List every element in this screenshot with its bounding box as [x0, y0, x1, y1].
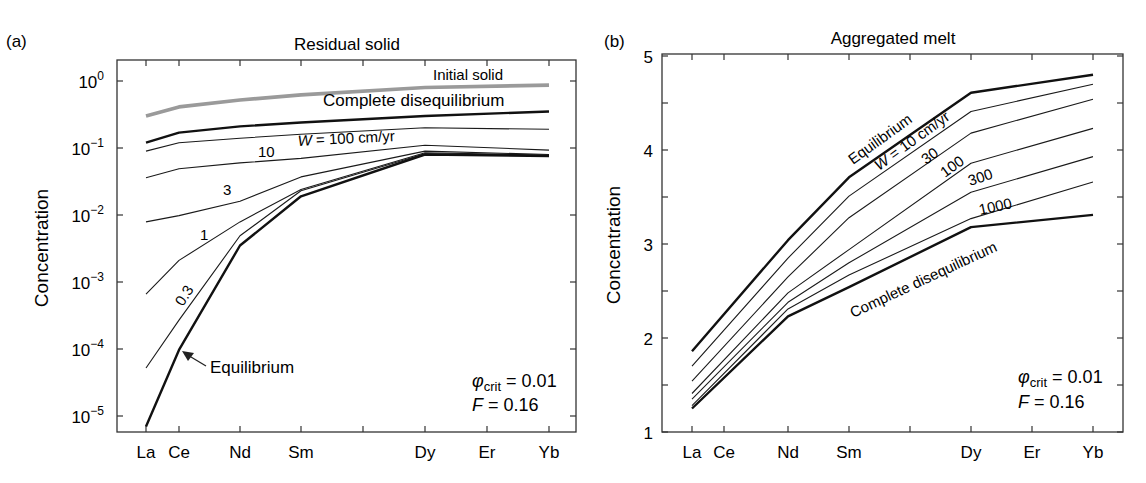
x-tick-label-er: Er [1024, 443, 1041, 462]
label-w300-b: 300 [966, 165, 995, 189]
series-line [146, 154, 549, 368]
y-tick-label: 10−5 [71, 404, 104, 427]
y-tick-label: 5 [644, 48, 653, 67]
y-tick-label: 10−3 [71, 270, 104, 293]
f-value: = 0.16 [483, 395, 539, 415]
y-tick-label: 4 [644, 142, 653, 161]
x-tick-label-sm: Sm [288, 443, 314, 462]
x-tick-label-ce: Ce [168, 443, 190, 462]
panel-a-y-axis-label: Concentration [31, 189, 52, 307]
panel-b-y-axis-label: Concentration [603, 186, 624, 304]
y-tick-label: 100 [78, 69, 104, 92]
label-w30-b: 30 [918, 144, 941, 168]
phi-symbol-b: φ [1018, 367, 1030, 387]
x-tick-label-nd: Nd [777, 443, 799, 462]
x-tick-label-la: La [683, 443, 702, 462]
f-param-b: F = 0.16 [1018, 392, 1085, 412]
panel-a-title: Residual solid [294, 35, 400, 54]
y-tick-label: 10−2 [71, 203, 104, 226]
phi-value-b: = 0.01 [1047, 367, 1103, 387]
phi-crit-param: φcrit = 0.01 [472, 371, 557, 394]
panel-b-annotations: Equilibrium W = 10 cm/yr 30 100 300 1000… [845, 107, 1103, 412]
x-tick-label-la: La [137, 443, 156, 462]
label-w1: 1 [200, 226, 208, 243]
label-w03: 0.3 [171, 282, 196, 309]
f-param: F = 0.16 [472, 395, 539, 415]
phi-subscript: crit [484, 379, 502, 394]
label-complete-disequilibrium: Complete disequilibrium [323, 91, 504, 110]
y-tick-label: 3 [644, 236, 653, 255]
x-tick-label-yb: Yb [539, 443, 560, 462]
y-tick-label: 1 [644, 424, 653, 443]
label-w100-b: 100 [937, 152, 967, 180]
panel-a-label: (a) [6, 32, 27, 51]
x-tick-label-yb: Yb [1083, 443, 1104, 462]
y-tick-label: 10−1 [71, 136, 104, 159]
series-line [146, 153, 549, 294]
f-value-b: = 0.16 [1029, 392, 1085, 412]
figure: (a) Residual solid Concentration 10010−1… [0, 0, 1146, 483]
x-tick-label-dy: Dy [961, 443, 982, 462]
label-equilibrium: Equilibrium [210, 358, 294, 377]
x-tick-label-dy: Dy [415, 443, 436, 462]
y-tick-label: 10−4 [71, 337, 104, 360]
panel-b-aggregated-melt: (b) Aggregated melt Concentration 12345 … [603, 29, 1123, 462]
label-w10: 10 [258, 143, 275, 160]
panel-b-title: Aggregated melt [831, 29, 956, 48]
x-tick-label-nd: Nd [229, 443, 251, 462]
y-tick-label: 2 [644, 330, 653, 349]
x-tick-label-sm: Sm [836, 443, 862, 462]
phi-subscript-b: crit [1030, 375, 1048, 390]
phi-crit-param-b: φcrit = 0.01 [1018, 367, 1103, 390]
series-line [692, 157, 1093, 400]
x-tick-label-ce: Ce [713, 443, 735, 462]
label-w1000-b: 1000 [977, 194, 1013, 218]
panel-a-residual-solid: (a) Residual solid Concentration 10010−1… [6, 32, 576, 462]
series-line [146, 145, 549, 178]
equilibrium-arrow-icon [182, 351, 206, 366]
panel-b-label: (b) [604, 32, 625, 51]
series-line [146, 151, 549, 222]
phi-value: = 0.01 [501, 371, 557, 391]
phi-symbol: φ [472, 371, 484, 391]
x-tick-label-er: Er [479, 443, 496, 462]
label-initial-solid: Initial solid [433, 66, 503, 83]
label-w100: W = 100 cm/yr [297, 127, 395, 149]
series-line [692, 128, 1093, 393]
label-w100-rest: = 100 cm/yr [311, 127, 395, 148]
label-w3: 3 [223, 181, 231, 198]
